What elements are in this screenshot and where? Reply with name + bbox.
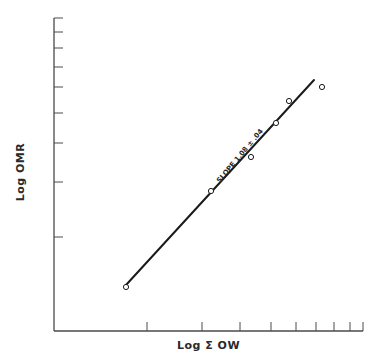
axes <box>54 18 363 331</box>
data-point-marker <box>123 284 128 289</box>
x-axis-title: Log Σ OW <box>0 339 381 352</box>
data-point-marker <box>286 98 291 103</box>
data-point-marker <box>208 188 213 193</box>
data-point-marker <box>319 84 324 89</box>
y-axis-title: Log OMR <box>14 143 27 202</box>
axis-ticks <box>54 18 363 331</box>
data-points <box>123 84 324 289</box>
data-point-marker <box>248 154 253 159</box>
data-point-marker <box>273 120 278 125</box>
chart-plot-area <box>0 0 381 364</box>
